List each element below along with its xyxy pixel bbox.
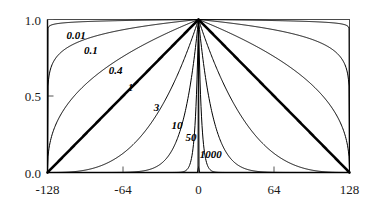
curve-label-0-1: 0.1 — [84, 44, 98, 56]
chart-container: 0.010.10.41310501000 1.0 0.5 0.0 -128 -6… — [0, 0, 375, 208]
y-tick-label-1: 1.0 — [25, 13, 41, 28]
curve-label-3: 3 — [153, 101, 160, 113]
curve-label-10: 10 — [171, 119, 183, 131]
x-tickmarks — [48, 167, 350, 173]
x-tick-label-4: 64 — [268, 182, 282, 197]
y-tick-label-2: 0.5 — [25, 89, 41, 104]
y-tick-label-3: 0.0 — [25, 166, 41, 181]
curve-set — [48, 20, 350, 173]
x-tick-label-1: -128 — [36, 182, 60, 197]
curve-1000 — [48, 20, 350, 173]
x-tick-label-2: -64 — [114, 182, 132, 197]
curve-label-0-4: 0.4 — [109, 64, 123, 76]
curve-label-0-01: 0.01 — [66, 29, 85, 41]
x-tick-label-5: 128 — [340, 182, 360, 197]
curve-label-1: 1 — [128, 81, 134, 93]
curve-label-50: 50 — [186, 131, 198, 143]
curve-family-plot: 0.010.10.41310501000 1.0 0.5 0.0 -128 -6… — [0, 0, 375, 208]
x-tick-label-3: 0 — [195, 182, 202, 197]
curve-label-1000: 1000 — [200, 148, 223, 160]
